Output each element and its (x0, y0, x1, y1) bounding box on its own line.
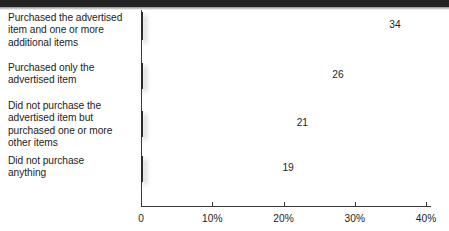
bar-3[interactable] (141, 156, 143, 182)
bar-chart: Purchased the advertised item and one or… (0, 0, 449, 231)
category-labels: Purchased the advertised item and one or… (0, 10, 138, 207)
category-label-0-line-3: additional items (8, 37, 138, 49)
category-label-2-line-3: purchased one or more (8, 125, 138, 137)
category-label-1-line-1: Purchased only the (8, 62, 138, 74)
x-axis-line (141, 206, 431, 207)
bar-value-label-1: 26 (332, 69, 343, 80)
x-tick-3 (355, 202, 356, 207)
x-tick-label-4: 40% (416, 213, 436, 224)
category-label-2: Did not purchase the advertised item but… (8, 100, 138, 149)
category-label-3: Did not purchase anything (8, 155, 138, 180)
bar-row[interactable] (141, 156, 276, 182)
plot-area: 010%20%30%40% 34262119 (141, 10, 441, 207)
x-tick-4 (426, 202, 427, 207)
category-label-3-line-1: Did not purchase (8, 155, 138, 167)
category-label-2-line-1: Did not purchase the (8, 100, 138, 112)
category-label-3-line-2: anything (8, 167, 138, 179)
bar-1[interactable] (141, 63, 143, 89)
x-tick-label-2: 20% (273, 213, 293, 224)
bar-row[interactable] (141, 12, 383, 40)
x-tick-2 (284, 202, 285, 207)
bar-row[interactable] (141, 63, 326, 89)
top-dark-band (0, 0, 449, 7)
x-tick-label-3: 30% (345, 213, 365, 224)
category-label-0-line-2: item and one or more (8, 24, 138, 36)
category-label-2-line-2: advertised item but (8, 112, 138, 124)
bar-row[interactable] (141, 111, 291, 137)
category-label-0: Purchased the advertised item and one or… (8, 12, 138, 49)
x-tick-1 (212, 202, 213, 207)
bar-value-label-0: 34 (389, 19, 400, 30)
bar-0[interactable] (141, 12, 143, 40)
category-label-1: Purchased only the advertised item (8, 62, 138, 87)
category-label-2-line-4: other items (8, 137, 138, 149)
category-label-1-line-2: advertised item (8, 74, 138, 86)
bar-value-label-2: 21 (297, 117, 308, 128)
category-label-0-line-1: Purchased the advertised (8, 12, 138, 24)
x-tick-label-1: 10% (202, 213, 222, 224)
bar-2[interactable] (141, 111, 143, 137)
x-tick-label-0: 0 (138, 213, 144, 224)
x-tick-0 (141, 202, 142, 207)
bar-value-label-3: 19 (282, 162, 293, 173)
